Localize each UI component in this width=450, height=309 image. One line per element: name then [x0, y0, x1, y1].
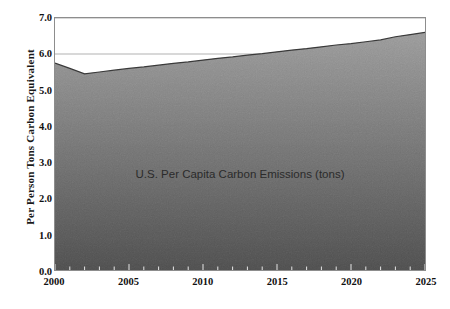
area-chart: Per Person Tons Carbon Equivalent 0.01.0…: [0, 0, 450, 309]
y-axis-tick-label: 6.0: [8, 48, 52, 59]
y-axis-tick-label: 4.0: [8, 120, 52, 131]
x-axis-tick-label: 2015: [267, 276, 288, 287]
y-axis-tick-label: 7.0: [8, 12, 52, 23]
y-axis-tick-label: 5.0: [8, 84, 52, 95]
plot-area: U.S. Per Capita Carbon Emissions (tons): [54, 17, 426, 271]
y-axis-tick-label: 3.0: [8, 157, 52, 168]
plot-svg: [55, 18, 425, 270]
x-axis-tick-label: 2000: [44, 276, 65, 287]
y-axis-tick-label: 2.0: [8, 193, 52, 204]
x-axis-tick-label: 2025: [416, 276, 437, 287]
y-axis-tick-labels: 0.01.02.03.04.05.06.07.0: [0, 0, 52, 309]
y-axis-tick-label: 0.0: [8, 266, 52, 277]
x-axis-tick-label: 2020: [341, 276, 362, 287]
y-axis-tick-label: 1.0: [8, 229, 52, 240]
x-axis-tick-label: 2010: [192, 276, 213, 287]
x-axis-tick-label: 2005: [118, 276, 139, 287]
